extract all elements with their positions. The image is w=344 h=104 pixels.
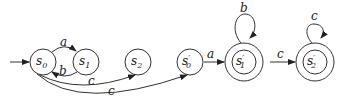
transition-label: c (311, 9, 318, 23)
transition-label: a (60, 35, 67, 49)
transition-label: b (240, 1, 248, 15)
transition-label: a (207, 47, 214, 61)
transition-s0prime-s1prime: a (204, 47, 224, 62)
transition-s1prime-s2prime: c (270, 47, 295, 62)
state-label: s2 (131, 54, 142, 70)
automaton-diagram: s0 s1 s2 s′0 s′1 s′2 a b c c a (0, 0, 344, 104)
state-label: s′0 (182, 53, 191, 70)
state-s2-prime: s′2 (296, 43, 334, 81)
state-label: s0 (36, 54, 47, 70)
state-label: s′1 (236, 53, 245, 70)
state-s0: s0 (30, 49, 56, 75)
transition-label: c (108, 84, 115, 98)
transition-label: c (277, 47, 284, 61)
transition-s1prime-loop: b (235, 1, 255, 43)
state-s1-prime: s′1 (225, 43, 263, 81)
state-s0-prime: s′0 (177, 49, 203, 75)
state-s2: s2 (125, 49, 151, 75)
transition-s0-s2: c (40, 74, 135, 88)
transition-s2prime-loop: c (307, 9, 324, 43)
state-s1: s1 (73, 49, 99, 75)
state-label: s1 (79, 54, 90, 70)
transition-label: c (88, 74, 95, 88)
transition-label: b (59, 64, 67, 78)
state-label: s′2 (307, 53, 316, 70)
transition-s0-s1: a (52, 35, 76, 52)
